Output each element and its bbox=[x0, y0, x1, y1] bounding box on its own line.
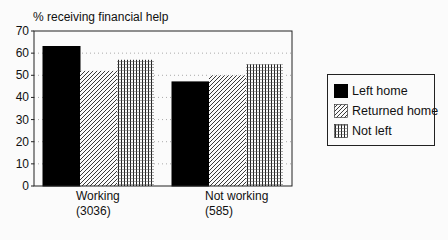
legend-label: Returned home bbox=[352, 104, 438, 118]
bar-left-home bbox=[172, 82, 209, 186]
bar-returned-home bbox=[209, 75, 246, 186]
bar-not-left bbox=[246, 64, 283, 186]
bars bbox=[43, 47, 283, 187]
grid-swatch-icon bbox=[334, 124, 348, 138]
y-tick-label: 50 bbox=[16, 68, 30, 82]
y-tick-label: 70 bbox=[16, 24, 30, 38]
legend-label: Left home bbox=[352, 84, 408, 98]
y-tick-label: 30 bbox=[16, 113, 30, 127]
y-tick-label: 20 bbox=[16, 135, 30, 149]
x-category-label: Working(3036) bbox=[76, 189, 120, 219]
solid-swatch-icon bbox=[334, 84, 348, 98]
hatch-swatch-icon bbox=[334, 104, 348, 118]
y-tick-label: 40 bbox=[16, 90, 30, 104]
y-tick-label: 10 bbox=[16, 157, 30, 171]
y-tick-label: 60 bbox=[16, 46, 30, 60]
bar-left-home bbox=[43, 47, 80, 187]
bar-not-left bbox=[117, 60, 154, 186]
y-tick-label: 0 bbox=[22, 179, 29, 193]
legend: Left home Returned home Not left bbox=[327, 74, 435, 146]
legend-label: Not left bbox=[352, 124, 392, 138]
bar-returned-home bbox=[80, 71, 117, 186]
x-category-label: Not working(585) bbox=[205, 189, 268, 219]
